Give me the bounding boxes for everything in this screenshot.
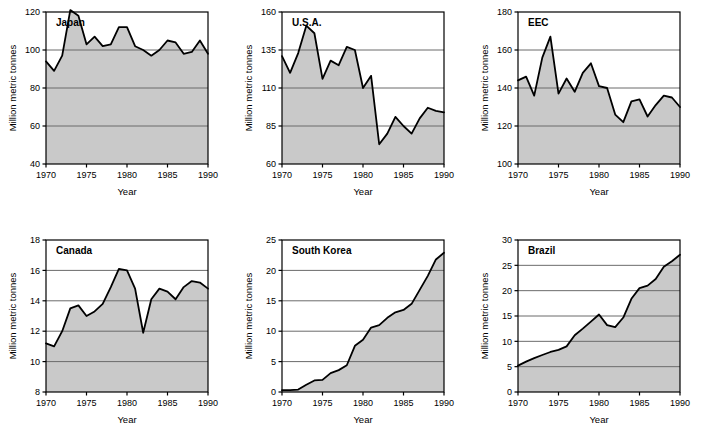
x-tick-label: 1970: [272, 170, 292, 180]
area-fill: [518, 255, 680, 392]
y-tick-label: 25: [502, 261, 512, 271]
x-tick-label: 1985: [157, 170, 177, 180]
x-axis-title: Year: [589, 414, 608, 425]
x-axis-title: Year: [353, 186, 372, 197]
panel-title: Japan: [56, 17, 85, 28]
chart-panel-canada: 8101214161819701975198019851990YearMilli…: [0, 228, 236, 440]
x-tick-label: 1980: [117, 170, 137, 180]
area-fill: [282, 253, 444, 392]
y-tick-label: 10: [30, 357, 40, 367]
y-tick-label: 16: [30, 266, 40, 276]
y-tick-label: 160: [261, 7, 276, 17]
x-tick-label: 1975: [76, 398, 96, 408]
x-axis-title: Year: [589, 186, 608, 197]
x-tick-label: 1980: [353, 398, 373, 408]
chart-panel-eec: 10012014016018019701975198019851990YearM…: [472, 0, 708, 212]
y-tick-label: 5: [271, 357, 276, 367]
y-tick-label: 0: [271, 387, 276, 397]
x-tick-label: 1970: [508, 170, 528, 180]
chart-svg-canada: 8101214161819701975198019851990YearMilli…: [0, 228, 236, 440]
y-axis-title: Million metric tonnes: [7, 272, 18, 359]
x-tick-label: 1975: [312, 170, 332, 180]
x-tick-label: 1975: [312, 398, 332, 408]
x-tick-label: 1980: [353, 170, 373, 180]
panel-title: Brazil: [528, 245, 555, 256]
x-tick-label: 1985: [157, 398, 177, 408]
x-axis-title: Year: [353, 414, 372, 425]
chart-svg-eec: 10012014016018019701975198019851990YearM…: [472, 0, 708, 212]
x-tick-label: 1990: [434, 170, 454, 180]
y-tick-label: 40: [30, 159, 40, 169]
y-axis-title: Million metric tonnes: [479, 44, 490, 131]
x-tick-label: 1990: [670, 398, 690, 408]
panel-title: U.S.A.: [292, 17, 322, 28]
chart-svg-u-s-a: 608511013516019701975198019851990YearMil…: [236, 0, 472, 212]
x-tick-label: 1985: [393, 170, 413, 180]
y-tick-label: 180: [497, 7, 512, 17]
y-axis-title: Million metric tonnes: [479, 272, 490, 359]
chart-svg-south-korea: 051015202519701975198019851990YearMillio…: [236, 228, 472, 440]
y-tick-label: 100: [25, 45, 40, 55]
y-tick-label: 5: [507, 362, 512, 372]
area-fill: [282, 26, 444, 164]
x-tick-label: 1970: [272, 398, 292, 408]
y-axis-title: Million metric tonnes: [243, 44, 254, 131]
y-axis-title: Million metric tonnes: [7, 44, 18, 131]
x-tick-label: 1970: [36, 398, 56, 408]
x-tick-label: 1975: [548, 398, 568, 408]
x-tick-label: 1990: [434, 398, 454, 408]
chart-panel-brazil: 05101520253019701975198019851990YearMill…: [472, 228, 708, 440]
area-fill: [46, 10, 208, 164]
y-tick-label: 140: [497, 83, 512, 93]
y-tick-label: 20: [502, 286, 512, 296]
chart-panel-usa: 608511013516019701975198019851990YearMil…: [236, 0, 472, 212]
x-tick-label: 1980: [589, 170, 609, 180]
x-axis-title: Year: [117, 186, 136, 197]
y-tick-label: 18: [30, 235, 40, 245]
x-axis-title: Year: [117, 414, 136, 425]
y-tick-label: 110: [262, 83, 276, 93]
y-tick-label: 60: [266, 159, 276, 169]
y-tick-label: 20: [266, 266, 276, 276]
y-tick-label: 80: [30, 83, 40, 93]
panel-title: Canada: [56, 245, 93, 256]
y-tick-label: 0: [507, 387, 512, 397]
y-tick-label: 120: [25, 7, 40, 17]
y-axis-title: Million metric tonnes: [243, 272, 254, 359]
chart-panel-south-korea: 051015202519701975198019851990YearMillio…: [236, 228, 472, 440]
y-tick-label: 30: [502, 235, 512, 245]
x-tick-label: 1985: [629, 170, 649, 180]
y-tick-label: 12: [30, 326, 40, 336]
x-tick-label: 1980: [589, 398, 609, 408]
y-tick-label: 15: [502, 311, 512, 321]
panel-title: EEC: [528, 17, 549, 28]
x-tick-label: 1985: [393, 398, 413, 408]
x-tick-label: 1980: [117, 398, 137, 408]
y-tick-label: 160: [497, 45, 512, 55]
chart-panel-japan: 40608010012019701975198019851990YearMill…: [0, 0, 236, 212]
y-tick-label: 120: [497, 121, 512, 131]
multi-panel-area-chart-figure: 40608010012019701975198019851990YearMill…: [0, 0, 709, 440]
y-tick-label: 10: [502, 337, 512, 347]
x-tick-label: 1990: [198, 170, 218, 180]
y-tick-label: 60: [30, 121, 40, 131]
chart-svg-brazil: 05101520253019701975198019851990YearMill…: [472, 228, 708, 440]
y-tick-label: 10: [266, 326, 276, 336]
y-tick-label: 25: [266, 235, 276, 245]
y-tick-label: 14: [30, 296, 40, 306]
x-tick-label: 1990: [198, 398, 218, 408]
y-tick-label: 15: [266, 296, 276, 306]
y-tick-label: 100: [497, 159, 512, 169]
y-tick-label: 135: [261, 45, 276, 55]
y-tick-label: 85: [266, 121, 276, 131]
panel-title: South Korea: [292, 245, 352, 256]
x-tick-label: 1970: [508, 398, 528, 408]
chart-svg-japan: 40608010012019701975198019851990YearMill…: [0, 0, 236, 212]
x-tick-label: 1985: [629, 398, 649, 408]
x-tick-label: 1975: [548, 170, 568, 180]
x-tick-label: 1975: [76, 170, 96, 180]
y-tick-label: 8: [35, 387, 40, 397]
x-tick-label: 1970: [36, 170, 56, 180]
x-tick-label: 1990: [670, 170, 690, 180]
